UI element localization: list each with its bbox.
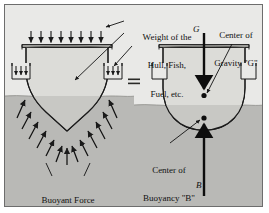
label-buoyant-force-line1: Buoyant Force — [26, 196, 110, 205]
deck-load-arrows — [31, 31, 101, 43]
bulwark-left-box — [12, 63, 30, 79]
label-center-of-gravity-line1: Center of — [205, 31, 267, 40]
label-weight-line3: Fuel, etc. — [128, 90, 206, 99]
label-weight-line2: Hull, Fish, — [128, 61, 206, 70]
point-label-g: G — [193, 24, 200, 34]
label-weight-line1: Weight of the — [128, 33, 206, 42]
label-center-of-gravity-line2: Gravity "G" — [205, 59, 267, 68]
label-center-of-gravity: Center of Gravity "G" — [205, 12, 267, 88]
label-buoyant-force: Buoyant Force on Hull — [26, 177, 110, 213]
diagram-canvas: Weight of the Hull, Fish, Fuel, etc. Cen… — [0, 0, 269, 213]
label-center-of-buoyancy-line2: Buoyancy "B" — [131, 194, 207, 203]
point-label-b: B — [196, 180, 202, 190]
bulwark-right-box — [104, 63, 122, 79]
label-center-of-buoyancy-line1: Center of — [131, 166, 207, 175]
